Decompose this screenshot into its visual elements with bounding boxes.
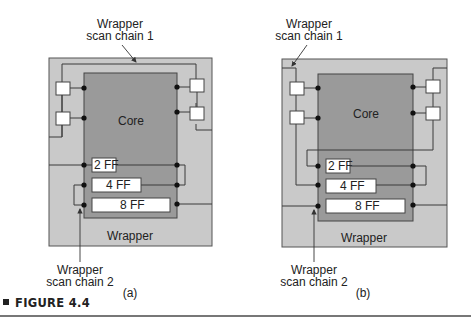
wrapper-label: Wrapper [341, 231, 387, 245]
chain-label: 4 FF [106, 178, 131, 192]
wrapper-cell [190, 107, 204, 120]
wrapper-cell [426, 107, 440, 120]
panel-b: 2 FF 4 FF 8 FF Core Wrapper Wrapper scan… [275, 17, 447, 300]
core-label: Core [353, 107, 379, 121]
wrapper-label: Wrapper [107, 229, 153, 243]
wrapper-cell [56, 112, 70, 125]
figure-diagram: 2 FF 4 FF 8 FF Core Wrapper Wrapper scan… [0, 0, 471, 332]
wrapper-cell [290, 111, 304, 124]
chain-label: 8 FF [120, 198, 145, 212]
panel-a: 2 FF 4 FF 8 FF Core Wrapper Wrapper scan… [46, 17, 212, 300]
scan-chain-2-label: scan chain 2 [280, 275, 348, 289]
wrapper-cell [190, 79, 204, 92]
wrapper-cell [426, 80, 440, 93]
core-label: Core [118, 114, 144, 128]
wrapper-cell [290, 82, 304, 95]
chain-label: 2 FF [94, 158, 119, 172]
wrapper-cell [56, 82, 70, 95]
core-box [84, 73, 177, 218]
panel-sublabel: (a) [123, 286, 138, 300]
caption-divider [0, 315, 471, 317]
bullet-square-icon [3, 299, 9, 305]
panel-sublabel: (b) [356, 286, 371, 300]
scan-chain-2-label: scan chain 2 [46, 275, 114, 289]
scan-chain-1-label: scan chain 1 [86, 29, 154, 43]
chain-label: 4 FF [340, 179, 365, 193]
figure-caption: FIGURE 4.4 [3, 296, 90, 310]
chain-label: 2 FF [328, 159, 353, 173]
scan-chain-1-label: scan chain 1 [275, 29, 343, 43]
chain-label: 8 FF [355, 199, 380, 213]
figure-caption-text: FIGURE 4.4 [15, 296, 90, 310]
